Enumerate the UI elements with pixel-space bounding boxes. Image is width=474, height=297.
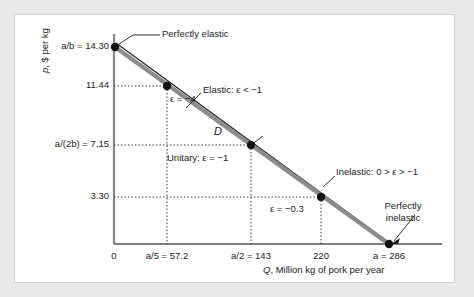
leader-inelastic [323, 176, 335, 187]
point-inelastic [317, 193, 325, 201]
y-tick-label-330: 3.30 [15, 191, 109, 202]
point-perfectly-inelastic [385, 240, 393, 248]
y-axis-title-symbol: p [39, 68, 50, 73]
y-tick-label-1430: a/b = 14.30 [15, 41, 109, 52]
annotation-elastic-range: Elastic: ε < −1 [203, 85, 262, 96]
annotation-elasticity-elastic-point: ε = −4 [170, 94, 196, 105]
leader-perfectly-elastic [119, 35, 160, 44]
x-axis-title: Q, Million kg of pork per year [263, 265, 384, 276]
y-axis-title: p, $ per kg [39, 59, 50, 73]
point-elastic [163, 82, 171, 90]
x-tick-label-143: a/2 = 143 [212, 251, 290, 262]
annotation-unitary: Unitary: ε = −1 [167, 153, 228, 164]
x-tick-label-572: a/5 = 57.2 [127, 251, 207, 262]
demand-curve-label: D [214, 125, 222, 138]
annotation-inelastic-range: Inelastic: 0 > ε > −1 [336, 167, 418, 178]
annotation-elasticity-inelastic-point: ε = −0.3 [270, 204, 304, 215]
x-axis-title-rest: , Million kg of pork per year [270, 264, 384, 275]
annotation-perfectly-inelastic-line1: Perfectly [367, 201, 439, 212]
annotation-perfectly-inelastic-line2: inelastic [367, 213, 439, 224]
point-perfectly-elastic [111, 43, 119, 51]
y-tick-label-715: a/(2b) = 7.15 [15, 139, 109, 150]
x-tick-label-220: 220 [301, 251, 341, 262]
annotation-perfectly-elastic: Perfectly elastic [162, 29, 229, 40]
chart-panel: p, $ per kg a/b = 14.30 11.44 a/(2b) = 7… [14, 14, 455, 283]
point-unitary [247, 141, 255, 149]
figure-root: p, $ per kg a/b = 14.30 11.44 a/(2b) = 7… [0, 0, 474, 297]
x-tick-label-0: 0 [97, 251, 131, 262]
y-tick-label-1144: 11.44 [15, 80, 109, 91]
x-tick-label-286: a = 286 [356, 251, 422, 262]
